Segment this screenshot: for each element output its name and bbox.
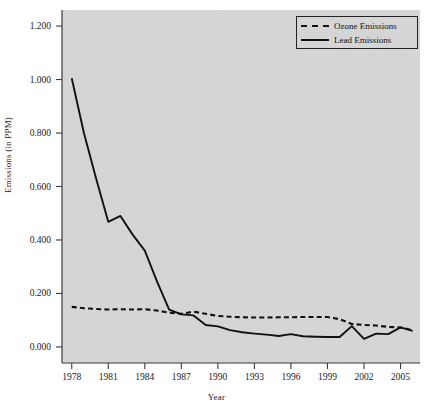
- y-tick-label: 0.000: [0, 342, 51, 352]
- x-tick-label: 2005: [391, 372, 410, 382]
- x-tick-label: 1987: [172, 372, 191, 382]
- plot-canvas: [0, 0, 433, 415]
- x-tick-label: 1996: [281, 372, 300, 382]
- legend-swatch-dashed-line-icon: [301, 21, 329, 31]
- legend-label-ozone: Ozone Emissions: [334, 21, 397, 31]
- y-tick-label: 0.600: [0, 182, 51, 192]
- x-tick-label: 1993: [245, 372, 264, 382]
- x-axis-ticks: [72, 363, 401, 369]
- y-tick-label: 1.200: [0, 21, 51, 31]
- x-tick-label: 1981: [99, 372, 118, 382]
- x-tick-label: 1990: [208, 372, 227, 382]
- y-tick-label: 0.400: [0, 235, 51, 245]
- y-axis-title: Emissions (in PPM): [3, 95, 13, 215]
- legend-item-ozone: Ozone Emissions: [301, 19, 413, 33]
- x-tick-label: 1978: [62, 372, 81, 382]
- chart-legend: Ozone Emissions Lead Emissions: [296, 16, 418, 49]
- x-tick-label: 1984: [135, 372, 154, 382]
- legend-item-lead: Lead Emissions: [301, 33, 413, 47]
- legend-swatch-solid-line-icon: [301, 35, 329, 45]
- legend-label-lead: Lead Emissions: [334, 35, 391, 45]
- y-tick-label: 1.000: [0, 75, 51, 85]
- y-tick-label: 0.200: [0, 288, 51, 298]
- y-tick-label: 0.800: [0, 128, 51, 138]
- y-axis-ticks: [56, 26, 62, 347]
- x-axis-title: Year: [0, 392, 433, 402]
- x-tick-label: 1999: [318, 372, 337, 382]
- x-tick-label: 2002: [354, 372, 373, 382]
- emissions-line-chart: Emissions (in PPM) Year 0.0000.2000.4000…: [0, 0, 433, 415]
